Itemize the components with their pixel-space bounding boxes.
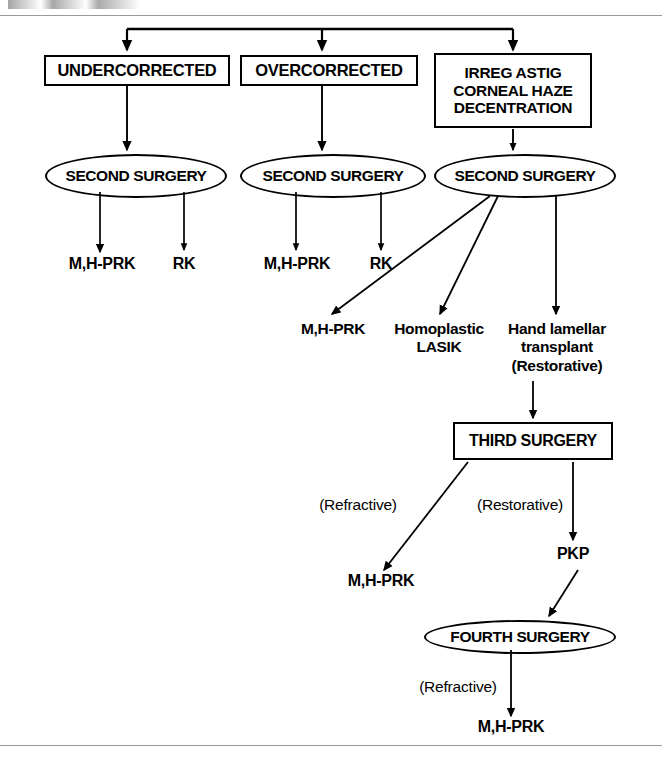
leaf-branch1-rk: RK <box>160 255 208 274</box>
leaf-branch3-hand-lamellar: Hand lamellar transplant (Restorative) <box>496 320 618 375</box>
node-third-surgery[interactable]: THIRD SURGERY <box>453 422 613 460</box>
leaf-branch2-mhprk: M,H-PRK <box>255 255 339 274</box>
leaf-third-mhprk: M,H-PRK <box>337 572 425 591</box>
leaf-branch1-mhprk: M,H-PRK <box>60 255 144 274</box>
leaf-third-pkp-text: PKP <box>557 545 589 562</box>
edge-label-third-restorative-text: (Restorative) <box>477 496 563 513</box>
node-irreg-astig-line3: DECENTRATION <box>454 99 572 116</box>
node-third-surgery-label: THIRD SURGERY <box>469 432 597 450</box>
node-second-surgery-1-label: SECOND SURGERY <box>65 167 206 185</box>
leaf-branch3-hand-lamellar-line2: transplant <box>521 338 593 355</box>
edge-third-surgery-to-mhprk <box>384 462 468 570</box>
leaf-third-mhprk-text: M,H-PRK <box>348 572 414 589</box>
node-irreg-astig-line1: IRREG ASTIG <box>465 64 562 81</box>
leaf-branch3-homoplastic: Homoplastic LASIK <box>383 320 495 357</box>
leaf-fourth-mhprk: M,H-PRK <box>467 718 555 737</box>
node-overcorrected[interactable]: OVERCORRECTED <box>240 55 418 86</box>
edge-pkp-to-fourth-surgery <box>549 570 578 616</box>
leaf-branch2-rk: RK <box>357 255 405 274</box>
node-undercorrected[interactable]: UNDERCORRECTED <box>44 55 230 86</box>
node-second-surgery-2-label: SECOND SURGERY <box>262 167 403 185</box>
leaf-branch1-rk-text: RK <box>173 255 196 272</box>
edge-second3-to-homoplastic <box>440 196 498 314</box>
edge-second3-to-mhprk <box>332 196 490 314</box>
leaf-branch1-mhprk-text: M,H-PRK <box>69 255 135 272</box>
leaf-branch3-homoplastic-line2: LASIK <box>416 338 461 355</box>
node-fourth-surgery-label: FOURTH SURGERY <box>450 628 589 646</box>
node-second-surgery-2[interactable]: SECOND SURGERY <box>240 154 426 198</box>
leaf-fourth-mhprk-text: M,H-PRK <box>478 718 544 735</box>
node-second-surgery-3[interactable]: SECOND SURGERY <box>434 154 616 198</box>
leaf-third-pkp: PKP <box>548 545 598 564</box>
node-fourth-surgery[interactable]: FOURTH SURGERY <box>424 620 616 654</box>
figure-canvas: UNDERCORRECTED OVERCORRECTED IRREG ASTIG… <box>0 0 662 764</box>
leaf-branch3-hand-lamellar-line1: Hand lamellar <box>508 320 606 337</box>
leaf-branch2-mhprk-text: M,H-PRK <box>264 255 330 272</box>
edge-label-fourth-refractive-text: (Refractive) <box>419 678 497 695</box>
edge-label-third-refractive-text: (Refractive) <box>319 496 397 513</box>
leaf-branch3-homoplastic-line1: Homoplastic <box>394 320 484 337</box>
leaf-branch2-rk-text: RK <box>370 255 393 272</box>
node-undercorrected-label: UNDERCORRECTED <box>58 61 217 79</box>
edge-label-fourth-refractive: (Refractive) <box>408 678 508 696</box>
node-irreg-astig[interactable]: IRREG ASTIG CORNEAL HAZE DECENTRATION <box>434 53 592 128</box>
node-irreg-astig-line2: CORNEAL HAZE <box>453 82 572 99</box>
leaf-branch3-hand-lamellar-line3: (Restorative) <box>512 357 603 374</box>
leaf-branch3-mhprk: M,H-PRK <box>291 320 375 338</box>
edge-label-third-restorative: (Restorative) <box>466 496 574 514</box>
node-overcorrected-label: OVERCORRECTED <box>255 61 402 79</box>
leaf-branch3-mhprk-text: M,H-PRK <box>301 320 365 337</box>
edge-label-third-refractive: (Refractive) <box>308 496 408 514</box>
node-second-surgery-1[interactable]: SECOND SURGERY <box>45 154 227 198</box>
node-second-surgery-3-label: SECOND SURGERY <box>454 167 595 185</box>
